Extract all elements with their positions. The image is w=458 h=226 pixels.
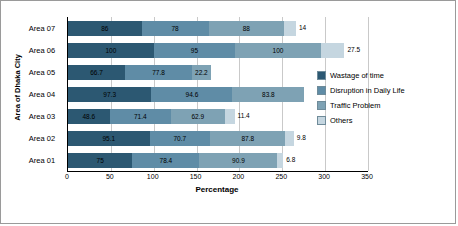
x-axis-tick-label: 150 bbox=[190, 173, 202, 180]
legend-swatch bbox=[317, 71, 326, 80]
x-axis-tick-label: 50 bbox=[106, 173, 114, 180]
legend-item: Traffic Problem bbox=[317, 99, 451, 112]
bar-segment: 94.6 bbox=[151, 87, 232, 102]
bar-segment: 90.9 bbox=[199, 153, 277, 168]
bar-segment: 83.8 bbox=[232, 87, 304, 102]
y-axis-tick-label: Area 06 bbox=[19, 46, 65, 55]
y-axis-title: Area of Dhaka City bbox=[3, 19, 19, 169]
legend-swatch bbox=[317, 101, 326, 110]
x-axis-tick-label: 250 bbox=[275, 173, 287, 180]
y-axis-tick-label: Area 07 bbox=[19, 24, 65, 33]
bar-segment bbox=[284, 21, 296, 36]
bar-segment: 70.7 bbox=[150, 131, 211, 146]
bar-segment: 48.6 bbox=[68, 109, 110, 124]
bar-segment: 22.2 bbox=[192, 65, 211, 80]
legend-item: Disruption in Daily Life bbox=[317, 84, 451, 97]
x-axis-tick-label: 350 bbox=[361, 173, 373, 180]
y-axis-tick-label: Area 04 bbox=[19, 90, 65, 99]
legend-label: Wastage of time bbox=[330, 71, 384, 80]
bar-segment: 95.1 bbox=[68, 131, 150, 146]
bar-segment: 71.4 bbox=[110, 109, 171, 124]
x-axis-tick-label: 100 bbox=[147, 173, 159, 180]
bar-segment: 87.8 bbox=[210, 131, 285, 146]
bar-row: 86788814 bbox=[68, 21, 368, 36]
bar-value-label: 9.8 bbox=[297, 134, 306, 141]
bar-segment: 66.7 bbox=[68, 65, 125, 80]
x-axis-title: Percentage bbox=[67, 185, 367, 194]
x-axis-tick-labels: 050100150200250300350 bbox=[67, 173, 369, 185]
x-axis-tick-label: 300 bbox=[318, 173, 330, 180]
legend-label: Traffic Problem bbox=[330, 101, 380, 110]
bar-segment bbox=[225, 109, 235, 124]
bar-segment bbox=[277, 153, 283, 168]
bar-segment: 77.8 bbox=[125, 65, 192, 80]
bar-value-label: 14 bbox=[299, 24, 306, 31]
bar-row: 7578.490.96.8 bbox=[68, 153, 368, 168]
legend-label: Others bbox=[330, 116, 353, 125]
y-axis-tick-label: Area 03 bbox=[19, 112, 65, 121]
bar-row: 95.170.787.89.8 bbox=[68, 131, 368, 146]
bar-segment: 86 bbox=[68, 21, 142, 36]
legend-item: Others bbox=[317, 114, 451, 127]
bar-segment: 95 bbox=[154, 43, 235, 58]
chart-container: Area of Dhaka City Area 01Area 02Area 03… bbox=[0, 0, 456, 224]
x-axis-tick-label: 200 bbox=[233, 173, 245, 180]
y-axis-tick-label: Area 01 bbox=[19, 156, 65, 165]
bar-value-label: 6.8 bbox=[286, 156, 295, 163]
bar-segment: 88 bbox=[209, 21, 284, 36]
legend-swatch bbox=[317, 86, 326, 95]
bar-segment: 62.9 bbox=[171, 109, 225, 124]
bar-row: 1009510027.5 bbox=[68, 43, 368, 58]
bar-value-label: 11.4 bbox=[238, 112, 250, 119]
bar-segment: 78.4 bbox=[132, 153, 199, 168]
x-axis-tick-label: 0 bbox=[65, 173, 69, 180]
legend-item: Wastage of time bbox=[317, 69, 451, 82]
y-axis-tick-label: Area 05 bbox=[19, 68, 65, 77]
bar-value-label: 27.5 bbox=[347, 46, 360, 53]
bar-segment bbox=[321, 43, 345, 58]
bar-segment: 78 bbox=[142, 21, 209, 36]
bar-segment: 75 bbox=[68, 153, 132, 168]
chart-legend: Wastage of timeDisruption in Daily LifeT… bbox=[317, 69, 451, 129]
bar-segment: 100 bbox=[68, 43, 154, 58]
bar-segment bbox=[285, 131, 293, 146]
legend-label: Disruption in Daily Life bbox=[330, 86, 405, 95]
y-axis-tick-labels: Area 01Area 02Area 03Area 04Area 05Area … bbox=[19, 17, 65, 171]
bar-segment: 97.3 bbox=[68, 87, 151, 102]
legend-swatch bbox=[317, 116, 326, 125]
bar-segment: 100 bbox=[235, 43, 321, 58]
y-axis-tick-label: Area 02 bbox=[19, 134, 65, 143]
